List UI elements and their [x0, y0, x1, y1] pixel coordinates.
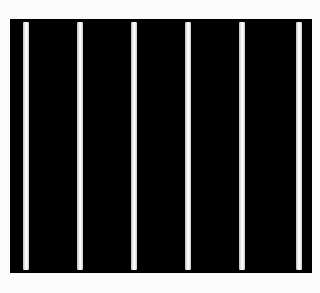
white-stripe [23, 22, 29, 270]
white-stripe [296, 22, 302, 270]
black-panel [10, 19, 312, 273]
white-stripe [131, 22, 137, 270]
white-stripe [239, 22, 245, 270]
white-stripe [77, 22, 83, 270]
white-stripe [185, 22, 191, 270]
